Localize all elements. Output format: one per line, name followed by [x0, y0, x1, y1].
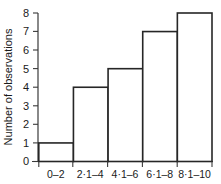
y-tick-label: 6 [23, 44, 29, 56]
y-tick-label: 0 [23, 155, 29, 167]
y-tick-label: 1 [23, 137, 29, 149]
y-axis-title: Number of observations [2, 28, 14, 145]
histogram-chart: 0 1 2 3 4 5 6 7 8 Number of observations [0, 0, 221, 184]
y-tick-label: 2 [23, 118, 29, 130]
bar-1 [73, 87, 108, 161]
x-axis-tick-labels: 0–2 2·1–4 4·1–6 6·1–8 8·1–10 [47, 168, 211, 180]
bar-3 [143, 32, 178, 162]
bar-4 [177, 13, 212, 162]
y-axis-tick-labels: 0 1 2 3 4 5 6 7 8 [23, 7, 29, 168]
bar-0 [39, 143, 74, 162]
x-tick-label: 8·1–10 [178, 168, 211, 180]
x-tick-label: 0–2 [47, 168, 65, 180]
y-tick-label: 5 [23, 63, 29, 75]
y-tick-label: 3 [23, 100, 29, 112]
x-axis-ticks [39, 162, 212, 168]
bar-2 [108, 69, 143, 162]
y-tick-label: 4 [23, 81, 29, 93]
y-axis-ticks [33, 13, 38, 162]
bars-group [39, 13, 212, 162]
chart-canvas: 0 1 2 3 4 5 6 7 8 Number of observations [0, 0, 221, 184]
y-tick-label: 8 [23, 7, 29, 19]
y-tick-label: 7 [23, 25, 29, 37]
x-tick-label: 4·1–6 [112, 168, 139, 180]
x-tick-label: 6·1–8 [146, 168, 173, 180]
x-tick-label: 2·1–4 [77, 168, 104, 180]
